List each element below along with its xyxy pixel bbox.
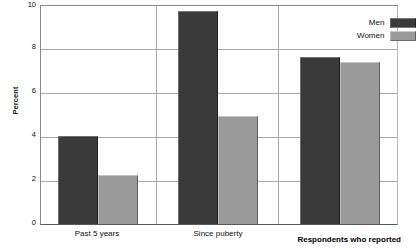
legend-item-men: Men: [357, 17, 416, 28]
bar-men-group-3: [300, 57, 340, 224]
legend-swatch-women-icon: [390, 31, 416, 41]
legend-item-women: Women: [357, 30, 416, 41]
legend-label-women: Women: [357, 32, 384, 40]
bar-men-since-puberty: [178, 11, 218, 224]
y-tick-label-4: 4: [20, 131, 36, 139]
x-axis-title: Respondents who reported: [297, 236, 401, 244]
y-tick-label-2: 2: [20, 175, 36, 183]
y-tick-label-6: 6: [20, 87, 36, 95]
legend-label-men: Men: [369, 19, 385, 27]
bar-women-past-5-years: [98, 175, 138, 224]
y-tick-label-10: 10: [20, 1, 36, 9]
legend: Men Women: [357, 17, 416, 41]
group-separator-1: [156, 6, 157, 224]
bar-men-past-5-years: [58, 136, 98, 224]
bar-women-group-3: [340, 62, 380, 224]
gridline-y-8: [41, 49, 397, 50]
bar-women-since-puberty: [218, 116, 258, 224]
x-tick-label-since-puberty: Since puberty: [157, 230, 279, 238]
y-tick-label-8: 8: [20, 43, 36, 51]
x-tick-label-past-5-years: Past 5 years: [37, 230, 157, 238]
legend-swatch-men-icon: [390, 18, 416, 28]
plot-area: Men Women: [40, 5, 398, 225]
group-separator-2: [278, 6, 279, 224]
y-tick-label-0: 0: [20, 219, 36, 227]
y-axis-tick-labels: 10 8 6 4 2 0: [18, 0, 36, 249]
